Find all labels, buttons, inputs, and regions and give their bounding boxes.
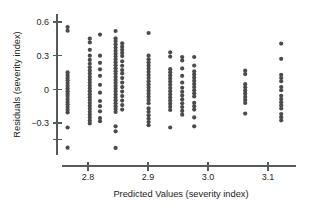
data-point [180,90,184,94]
data-point [114,129,118,133]
data-point [120,107,124,111]
data-point [66,146,70,150]
y-tick-label: −0.3 [31,118,49,128]
data-point [147,101,151,105]
data-point [98,91,102,95]
data-point [279,106,283,110]
data-point [279,88,283,92]
data-point [180,66,184,70]
data-point [120,64,124,68]
data-point [168,125,172,129]
data-point [147,110,151,114]
data-point [192,115,196,119]
data-point [180,94,184,98]
y-tick-label: 0.6 [36,17,49,27]
data-point [243,72,247,76]
data-point [98,83,102,87]
data-point [98,99,102,103]
data-point [114,29,118,33]
data-point [192,63,196,67]
data-point [120,103,124,107]
data-point [98,119,102,123]
data-point [88,121,92,125]
data-point [180,86,184,90]
data-point [98,74,102,78]
data-point [98,109,102,113]
data-point [180,97,184,101]
data-point [88,40,92,44]
data-point [88,48,92,52]
data-point [66,29,70,33]
data-point [88,58,92,62]
data-point [120,54,124,58]
x-tick-label: 3.1 [262,172,275,182]
data-point [120,81,124,85]
data-point [120,76,124,80]
data-point [120,71,124,75]
x-tick-label: 3.0 [202,172,215,182]
data-point [192,55,196,59]
data-point [88,54,92,58]
data-point [114,110,118,114]
data-point [120,59,124,63]
x-tick-label: 2.9 [142,172,155,182]
data-point [66,25,70,29]
data-point [180,74,184,78]
data-point [114,146,118,150]
data-point [66,110,70,114]
data-point [180,101,184,105]
y-tick-label: 0 [44,85,49,95]
data-point [120,98,124,102]
y-axis-title: Residuals (severity index) [12,31,22,137]
data-point [98,54,102,58]
residual-scatter-figure: 0.60.30−0.32.82.93.03.1Predicted Values … [0,0,317,210]
data-point [243,101,247,105]
data-point [147,31,151,35]
data-point [98,104,102,108]
data-point [147,123,151,127]
data-point [120,85,124,89]
data-point [192,124,196,128]
data-point [192,107,196,111]
data-point [147,54,151,58]
plot-canvas: 0.60.30−0.32.82.93.03.1Predicted Values … [0,0,317,210]
x-axis-title: Predicted Values (severity index) [113,189,248,199]
data-point [168,108,172,112]
data-point [88,37,92,41]
data-point [66,125,70,129]
data-point [192,94,196,98]
data-point [180,105,184,109]
data-point [279,79,283,83]
x-tick-label: 2.8 [82,172,95,182]
data-point [98,67,102,71]
data-point [243,111,247,115]
data-point [180,113,184,117]
axis-labels-group: 0.60.30−0.32.82.93.03.1Predicted Values … [12,17,274,199]
data-point [120,94,124,98]
data-point [180,109,184,113]
data-point [180,81,184,85]
data-point [114,124,118,128]
data-point [168,54,172,58]
data-point [279,57,283,61]
data-point [98,61,102,65]
data-point [120,89,124,93]
data-point [168,50,172,54]
data-point [88,62,92,66]
y-tick-label: 0.3 [36,51,49,61]
data-point [279,118,283,122]
data-point [279,41,283,45]
data-points-group [66,25,284,150]
data-point [180,58,184,62]
data-point [98,32,102,36]
